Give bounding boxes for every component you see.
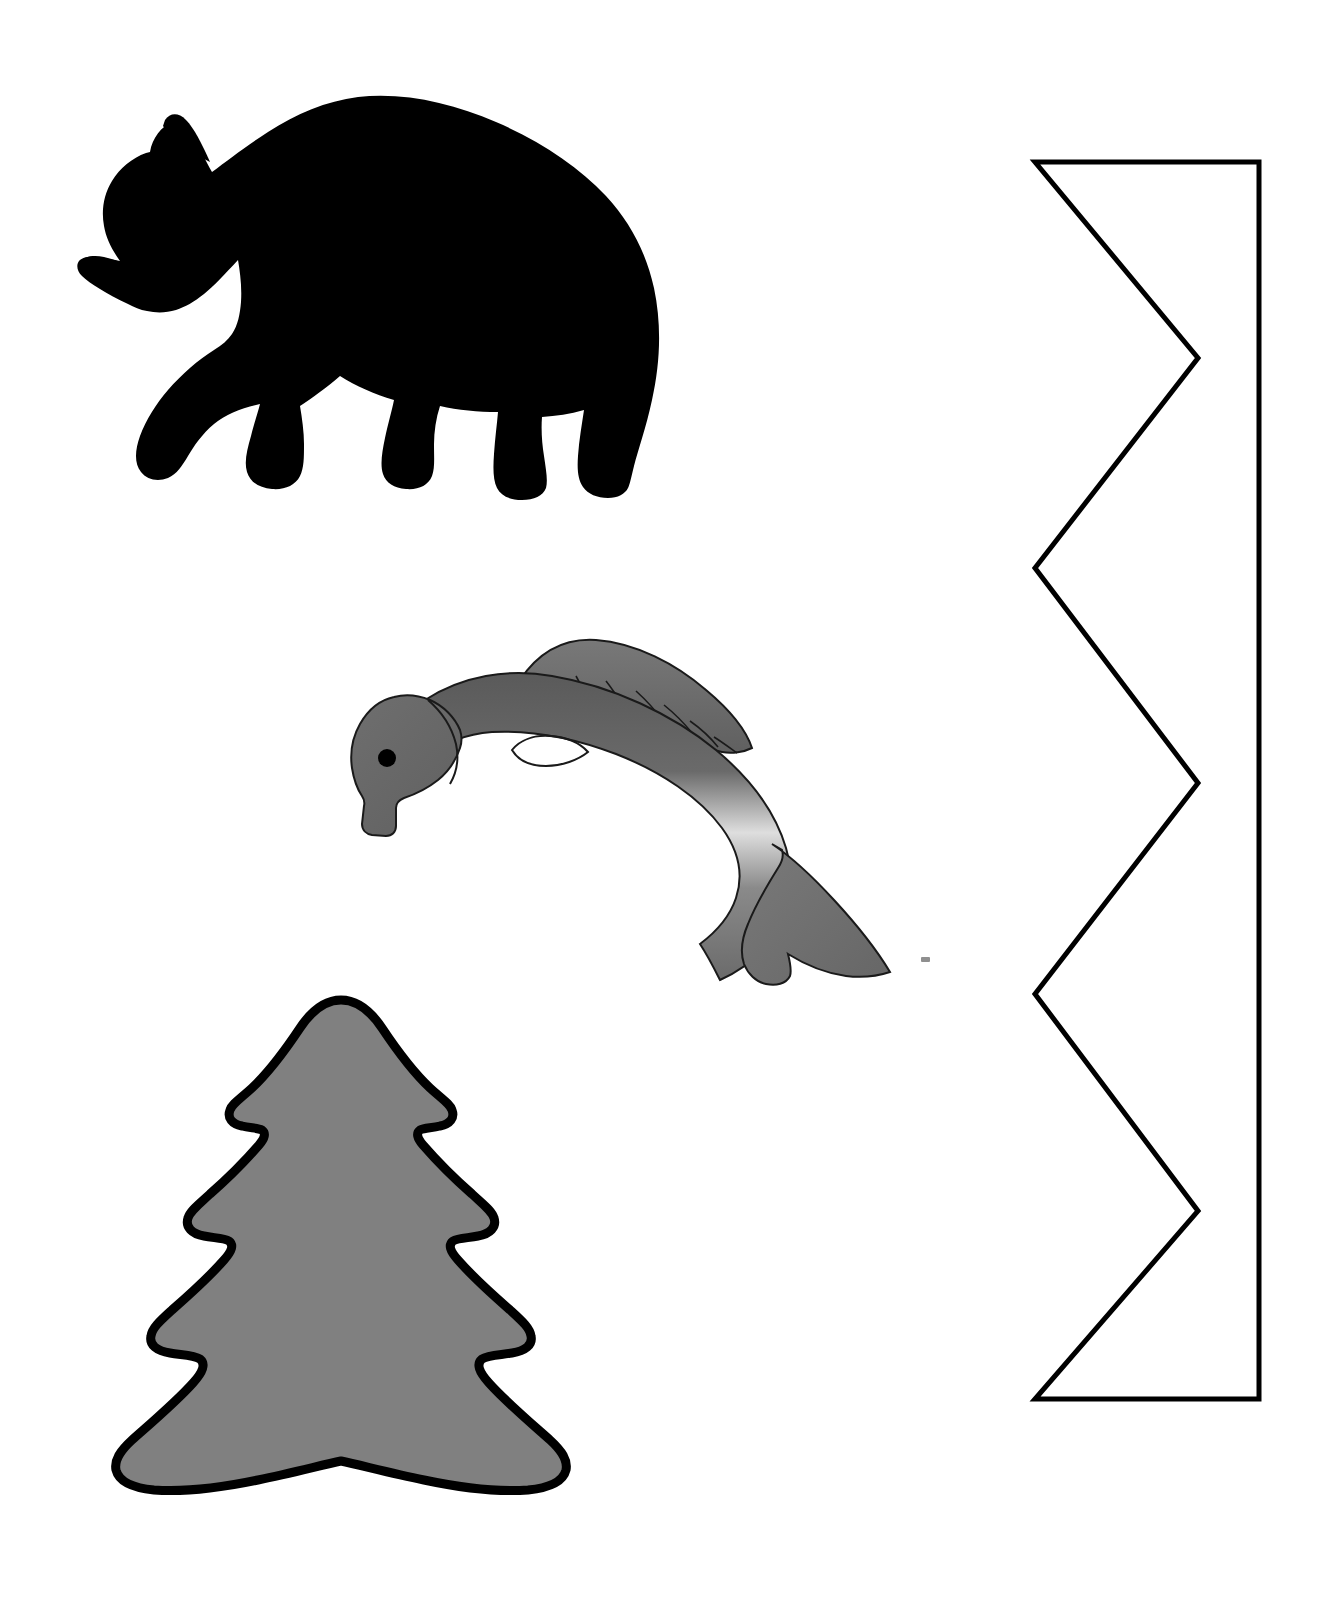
worksheet-page bbox=[0, 0, 1326, 1622]
stray-gray-speck bbox=[921, 957, 930, 962]
zigzag-strip-outline bbox=[0, 0, 1326, 1622]
zigzag-strip-polygon bbox=[1035, 162, 1259, 1399]
zigzag-layer bbox=[0, 0, 1326, 1622]
